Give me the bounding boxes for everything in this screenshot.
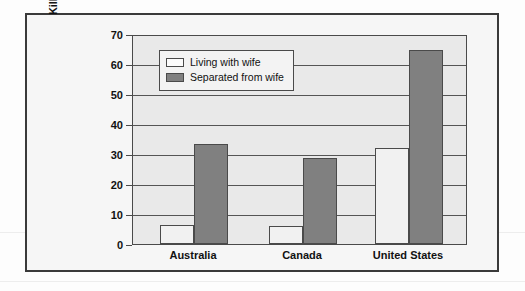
- y-axis-label-60: 60: [83, 60, 123, 71]
- y-tick-60: [126, 65, 132, 66]
- y-tick-0: [126, 245, 132, 246]
- legend-swatch-light-icon: [166, 58, 184, 67]
- y-tick-30: [126, 155, 132, 156]
- scan-artifact-band: [0, 281, 525, 282]
- x-axis-label-canada: Canada: [282, 249, 322, 261]
- y-axis-title-text: Killings per million wives each year: [47, 0, 71, 37]
- bar-australia-separated-from-wife: [194, 144, 228, 244]
- y-axis-label-10: 10: [83, 210, 123, 221]
- y-axis-title: Killings per million wives each year: [45, 0, 71, 37]
- legend-item-living-with-wife: Living with wife: [166, 55, 287, 70]
- chart-legend: Living with wife Separated from wife: [159, 50, 294, 91]
- bar-australia-living-with-wife: [160, 225, 194, 244]
- y-tick-50: [126, 95, 132, 96]
- bar-canada-living-with-wife: [269, 226, 303, 244]
- bar-united-states-separated-from-wife: [409, 50, 443, 244]
- legend-label-separated-from-wife: Separated from wife: [190, 72, 284, 83]
- y-tick-20: [126, 185, 132, 186]
- legend-label-living-with-wife: Living with wife: [190, 57, 261, 68]
- x-axis-label-australia: Australia: [169, 249, 216, 261]
- y-axis-label-20: 20: [83, 180, 123, 191]
- bar-chart: Killings per million wives each year: [27, 15, 501, 274]
- y-axis-label-0: 0: [83, 240, 123, 251]
- y-axis-label-50: 50: [83, 90, 123, 101]
- figure-frame: Killings per million wives each year: [25, 13, 499, 272]
- bar-united-states-living-with-wife: [375, 148, 409, 244]
- y-axis-label-70: 70: [83, 30, 123, 41]
- y-tick-40: [126, 125, 132, 126]
- y-axis-label-30: 30: [83, 150, 123, 161]
- y-tick-70: [126, 35, 132, 36]
- page-background: Killings per million wives each year: [0, 0, 525, 291]
- y-axis-label-40: 40: [83, 120, 123, 131]
- bar-canada-separated-from-wife: [303, 158, 337, 244]
- legend-item-separated-from-wife: Separated from wife: [166, 70, 287, 85]
- x-axis-label-united-states: United States: [373, 249, 443, 261]
- y-tick-10: [126, 215, 132, 216]
- legend-swatch-dark-icon: [166, 73, 184, 82]
